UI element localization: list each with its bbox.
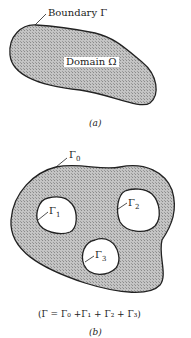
boundary-leader-line [35,14,46,25]
gamma1-leader [38,212,48,220]
domain-label: Domain Ω [64,57,119,67]
diagram-canvas [0,0,191,338]
gamma3-leader [85,256,94,262]
caption-a: (a) [89,118,101,128]
gamma-equation: (Γ = Γ₀ +Γ₁ + Γ₂ + Γ₃) [38,310,141,319]
gamma2-label: Γ2 [128,198,139,211]
gamma1-label: Γ1 [49,206,60,219]
outer-boundary-shape [11,165,174,292]
gamma0-label: Γ0 [69,150,80,163]
caption-b: (b) [89,327,102,337]
gamma3-label: Γ3 [95,250,106,263]
gamma2-leader [118,203,127,209]
boundary-label: Boundary Γ [48,8,107,18]
